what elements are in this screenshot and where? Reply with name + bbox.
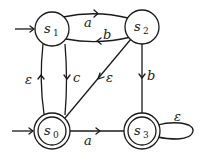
edge-s0-s3-a: a [69, 128, 125, 148]
state-s1[interactable]: s 1 [35, 12, 69, 46]
state-name: s [44, 123, 51, 138]
edge-s1-s2-a: a [63, 10, 128, 30]
edge-label: ε [25, 72, 32, 87]
edge-label: c [73, 70, 81, 85]
state-name: s [44, 21, 51, 36]
edge-label: b [103, 27, 111, 42]
state-subscript: 0 [53, 130, 59, 140]
start-arrow-s0 [12, 128, 33, 134]
state-subscript: 3 [143, 130, 149, 140]
edge-s3-s3-epsilon: ε [158, 109, 193, 139]
state-diagram: a b ε c ε b a ε s [0, 0, 201, 158]
state-s0[interactable]: s 0 [34, 113, 70, 149]
state-subscript: 2 [143, 26, 149, 36]
edge-s0-s1-epsilon: ε [25, 44, 44, 114]
state-name: s [134, 19, 141, 34]
state-subscript: 1 [53, 28, 59, 38]
edge-label: b [147, 68, 155, 83]
edge-s2-s1-b: b [66, 27, 131, 44]
state-name: s [134, 123, 141, 138]
edge-s2-s3-b: b [139, 43, 155, 114]
edge-label: a [84, 133, 92, 148]
edge-label: a [84, 15, 92, 30]
state-s3[interactable]: s 3 [124, 113, 160, 149]
state-s2[interactable]: s 2 [125, 10, 159, 44]
edge-s1-s0-c: c [64, 44, 81, 115]
start-arrow-s1 [15, 26, 34, 32]
edge-label: ε [106, 70, 113, 85]
edge-label: ε [174, 109, 181, 124]
